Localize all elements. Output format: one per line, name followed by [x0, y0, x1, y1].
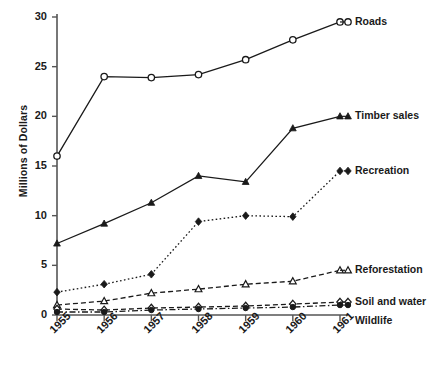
- y-tick-label: 5: [25, 258, 47, 270]
- legend-label-timber-sales: Timber sales: [355, 109, 419, 121]
- data-point: [148, 199, 155, 205]
- data-point: [290, 37, 296, 43]
- series-reforestation: [54, 267, 344, 308]
- data-point: [54, 288, 60, 296]
- data-point: [195, 71, 201, 77]
- data-point: [345, 167, 351, 175]
- data-point: [242, 212, 248, 220]
- data-point: [242, 281, 249, 287]
- chart-figure: Millions of Dollars 05101520253019551956…: [0, 0, 431, 369]
- y-tick-label: 0: [25, 308, 47, 320]
- legend-label-reforestation: Reforestation: [355, 263, 423, 275]
- data-point: [101, 297, 108, 303]
- data-point: [242, 57, 248, 63]
- data-point: [345, 267, 352, 273]
- y-tick-label: 10: [25, 209, 47, 221]
- data-point: [54, 153, 60, 159]
- y-tick-label: 25: [25, 60, 47, 72]
- series-line: [57, 171, 340, 292]
- y-tick-label: 15: [25, 159, 47, 171]
- data-point: [148, 270, 154, 278]
- series-roads: [54, 19, 343, 160]
- data-point: [345, 302, 350, 307]
- series-timber-sales: [54, 113, 344, 246]
- legend-label-soil-and-water: Soil and water: [355, 295, 426, 307]
- data-point: [195, 172, 202, 178]
- data-point: [196, 306, 201, 311]
- data-point: [101, 73, 107, 79]
- series-line: [57, 22, 340, 156]
- data-point: [148, 290, 155, 296]
- data-point: [101, 280, 107, 288]
- data-point: [195, 286, 202, 292]
- data-point: [290, 304, 295, 309]
- series-recreation: [54, 167, 343, 296]
- legend-label-roads: Roads: [355, 15, 387, 27]
- legend-label-wildlife: Wildlife: [355, 314, 392, 326]
- legend-label-recreation: Recreation: [355, 164, 409, 176]
- data-point: [149, 307, 154, 312]
- data-point: [148, 74, 154, 80]
- data-point: [243, 305, 248, 310]
- data-point: [345, 19, 351, 25]
- data-point: [195, 218, 201, 226]
- y-tick-label: 30: [25, 10, 47, 22]
- y-tick-label: 20: [25, 109, 47, 121]
- data-point: [289, 278, 296, 284]
